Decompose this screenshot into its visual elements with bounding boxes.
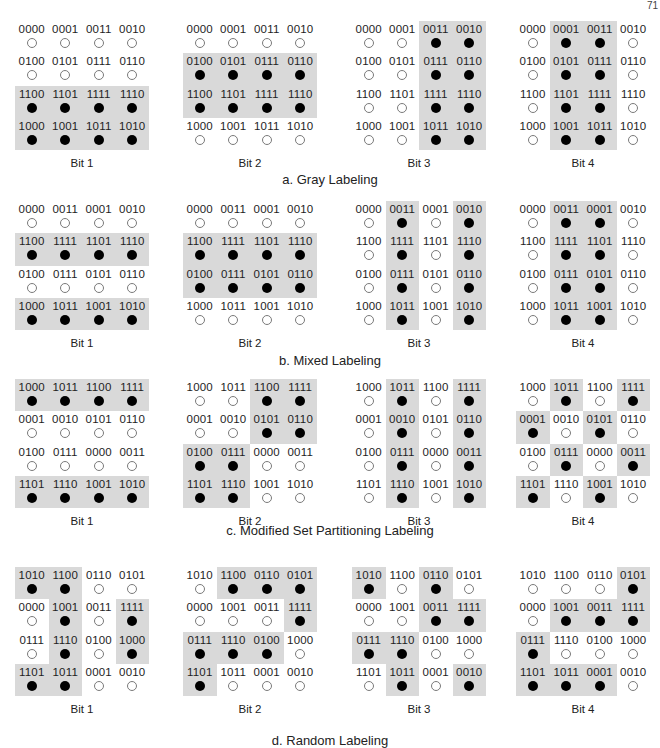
point-label: 1111: [617, 381, 651, 393]
filled-dot-icon: [262, 396, 272, 406]
point-label: 0001: [82, 666, 116, 678]
bit-label: Bit 4: [516, 703, 650, 715]
point-label: 0111: [583, 55, 617, 67]
point-label: 0100: [250, 634, 284, 646]
hollow-dot-icon: [94, 38, 104, 48]
filled-dot-icon: [195, 493, 205, 503]
point-label: 1011: [550, 666, 584, 678]
constellation-point: 0101: [116, 567, 150, 599]
hollow-dot-icon: [228, 38, 238, 48]
point-label: 0011: [82, 23, 116, 35]
constellation-point: 1011: [550, 664, 584, 696]
hollow-dot-icon: [27, 218, 37, 228]
point-label: 1111: [550, 235, 584, 247]
hollow-dot-icon: [364, 681, 374, 691]
filled-dot-icon: [27, 493, 37, 503]
constellation-point: 0111: [49, 266, 83, 298]
point-label: 1100: [217, 569, 251, 581]
point-label: 1000: [183, 120, 217, 132]
hollow-dot-icon: [60, 428, 70, 438]
constellation-point: 1101: [82, 233, 116, 265]
hollow-dot-icon: [528, 103, 538, 113]
hollow-dot-icon: [397, 38, 407, 48]
point-label: 0100: [516, 268, 550, 280]
constellation-point: 0011: [217, 201, 251, 233]
constellation-point: 1111: [453, 599, 487, 631]
filled-dot-icon: [127, 250, 137, 260]
hollow-dot-icon: [127, 70, 137, 80]
constellation-point: 0010: [284, 664, 318, 696]
point-label: 0110: [82, 569, 116, 581]
constellation-point: 1111: [284, 599, 318, 631]
hollow-dot-icon: [595, 396, 605, 406]
constellation-point: 1010: [617, 118, 651, 150]
point-label: 1011: [550, 300, 584, 312]
point-label: 0001: [15, 413, 49, 425]
point-label: 1001: [250, 300, 284, 312]
point-label: 1101: [183, 478, 217, 490]
filled-dot-icon: [364, 584, 374, 594]
constellation-point: 1101: [352, 476, 386, 508]
point-label: 0100: [183, 55, 217, 67]
point-label: 1101: [516, 666, 550, 678]
point-label: 1100: [516, 88, 550, 100]
filled-dot-icon: [464, 681, 474, 691]
point-label: 0101: [250, 413, 284, 425]
hollow-dot-icon: [364, 218, 374, 228]
constellation-point: 1001: [217, 599, 251, 631]
constellation-point: 1010: [284, 476, 318, 508]
constellation-point: 1111: [550, 233, 584, 265]
constellation-point: 0100: [82, 632, 116, 664]
point-label: 1001: [250, 478, 284, 490]
hollow-dot-icon: [127, 283, 137, 293]
constellation-point: 1000: [352, 118, 386, 150]
point-label: 0100: [352, 55, 386, 67]
filled-dot-icon: [431, 38, 441, 48]
point-label: 0111: [82, 55, 116, 67]
bit-label: Bit 2: [183, 337, 317, 349]
point-label: 0011: [419, 601, 453, 613]
point-label: 1000: [15, 300, 49, 312]
point-label: 0111: [550, 446, 584, 458]
hollow-dot-icon: [60, 38, 70, 48]
point-label: 0101: [583, 413, 617, 425]
constellation-point: 0000: [516, 201, 550, 233]
hollow-dot-icon: [364, 38, 374, 48]
point-label: 0000: [352, 23, 386, 35]
constellation-point: 0111: [583, 53, 617, 85]
hollow-dot-icon: [628, 681, 638, 691]
point-label: 0011: [386, 203, 420, 215]
constellation-point: 0000: [250, 444, 284, 476]
constellation-point: 1001: [550, 118, 584, 150]
point-label: 1100: [516, 235, 550, 247]
filled-dot-icon: [397, 315, 407, 325]
constellation-point: 1001: [419, 298, 453, 330]
constellation-grid: 1000101111001111000100100101011001000111…: [352, 379, 486, 508]
filled-dot-icon: [464, 38, 474, 48]
point-label: 0010: [284, 23, 318, 35]
point-label: 0010: [116, 203, 150, 215]
constellation-point: 0010: [453, 201, 487, 233]
constellation-point: 0101: [250, 411, 284, 443]
filled-dot-icon: [397, 461, 407, 471]
constellation-point: 1000: [15, 298, 49, 330]
point-label: 1110: [217, 478, 251, 490]
filled-dot-icon: [397, 649, 407, 659]
hollow-dot-icon: [262, 616, 272, 626]
hollow-dot-icon: [628, 218, 638, 228]
constellation-point: 1110: [453, 233, 487, 265]
constellation-point: 0000: [15, 599, 49, 631]
constellation-panel: 1000101111001111000100100101011001000111…: [15, 379, 149, 508]
constellation-point: 0010: [284, 201, 318, 233]
constellation-point: 0111: [183, 632, 217, 664]
filled-dot-icon: [295, 103, 305, 113]
filled-dot-icon: [195, 461, 205, 471]
hollow-dot-icon: [127, 681, 137, 691]
point-label: 0101: [419, 268, 453, 280]
constellation-point: 1100: [183, 86, 217, 118]
point-label: 1011: [49, 300, 83, 312]
filled-dot-icon: [464, 103, 474, 113]
point-label: 1000: [617, 634, 651, 646]
filled-dot-icon: [94, 493, 104, 503]
point-label: 0001: [217, 23, 251, 35]
